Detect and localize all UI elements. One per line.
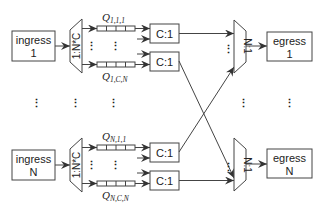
queue-label-n-1-1: QN,1,1: [102, 130, 126, 144]
queue-1-c-n: [97, 62, 135, 67]
demux-n-label: 1:N*C: [71, 152, 82, 179]
ellipsis-ingress: ⋮: [31, 97, 42, 109]
ellipsis-queues-n: ⋮: [110, 159, 121, 171]
queue-n-c-n: [97, 181, 135, 186]
ingress-n-group: ingress N: [12, 150, 55, 180]
queue-n-1-1: [97, 145, 135, 150]
ellipsis-queues: ⋮: [108, 97, 119, 109]
demux-n: 1:N*C: [70, 138, 82, 192]
demux-1: 1:N*C: [70, 19, 82, 73]
arbiter-n-1: C:1: [150, 143, 179, 162]
arbiter-n-c: C:1: [150, 171, 179, 190]
ellipsis-muxN-inputs: ⋮: [223, 161, 234, 173]
ingress-1-group: ingress 1: [12, 31, 55, 61]
queue-label-1-1-1: Q1,1,1: [102, 11, 125, 25]
ellipsis-mux1-inputs: ⋮: [223, 43, 234, 55]
ingress-n-label: ingress: [16, 153, 52, 165]
egress-1-number: 1: [286, 48, 292, 60]
egress-n-group: egress N: [267, 149, 312, 178]
svg-text:C:1: C:1: [156, 28, 173, 40]
ellipsis-egress: ⋮: [284, 97, 295, 109]
svg-text:C:1: C:1: [156, 175, 173, 187]
queue-label-1-c-n: Q1,C,N: [102, 70, 128, 84]
demux-1-label: 1:N*C: [71, 33, 82, 60]
egress-n-label: egress: [273, 152, 307, 164]
svg-text:C:1: C:1: [156, 56, 173, 68]
switch-architecture-diagram: ingress 1 1:N*C Q1,1,1 Q1,C,N ⋮ ⋮ C:1 C:…: [0, 0, 324, 209]
ellipsis-demux1-outputs: ⋮: [86, 40, 97, 52]
ellipsis-demux: ⋮: [70, 97, 81, 109]
egress-1-group: egress 1: [267, 32, 312, 61]
ingress-1-label: ingress: [16, 34, 52, 46]
egress-n-number: N: [286, 165, 294, 177]
arbiter-1-c: C:1: [150, 52, 179, 71]
ellipsis-queues-1: ⋮: [110, 40, 121, 52]
svg-text:C:1: C:1: [156, 147, 173, 159]
mux-n-label: N:1: [242, 157, 253, 173]
ellipsis-mux: ⋮: [238, 97, 249, 109]
arbiter-1-1: C:1: [150, 24, 179, 43]
ingress-n-number: N: [30, 166, 38, 178]
queue-label-n-c-n: QN,C,N: [102, 189, 130, 203]
link-armN1-to-mux1: [179, 67, 234, 152]
egress-1-label: egress: [273, 35, 307, 47]
ingress-1-number: 1: [30, 47, 36, 59]
ellipsis-demuxN-outputs: ⋮: [86, 159, 97, 171]
queue-1-1-1: [97, 26, 135, 31]
